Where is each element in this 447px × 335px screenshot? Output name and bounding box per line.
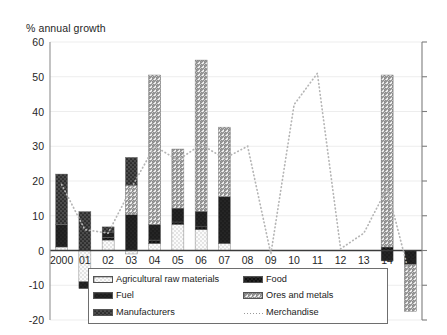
bar-segment — [56, 174, 68, 224]
x-axis-tick: 15 — [405, 254, 417, 266]
bar-segment — [195, 227, 207, 230]
bar-segment — [218, 197, 230, 244]
y-axis-tick: -20 — [18, 314, 44, 326]
y-axis-tick: 20 — [18, 175, 44, 187]
bar-segment — [195, 211, 207, 227]
bar-segment — [172, 224, 184, 250]
legend-label: Fuel — [116, 291, 134, 300]
bar-segment — [172, 208, 184, 222]
legend-swatch-dark-dotted-swatch — [93, 309, 113, 316]
bar-segment — [404, 264, 416, 311]
legend-item[interactable]: Food — [243, 271, 383, 288]
x-axis-tick: 05 — [172, 254, 184, 266]
bar-segment — [56, 224, 68, 247]
bar-segment — [102, 237, 114, 240]
chart-container: % annual growth 6050403020100-10-20 2000… — [0, 0, 447, 335]
legend-label: Ores and metals — [266, 291, 333, 300]
x-axis-tick: 03 — [126, 254, 138, 266]
x-axis-tick: 13 — [358, 254, 370, 266]
legend-swatch-dark-crosshatch-swatch — [243, 276, 263, 283]
y-axis-tick: 40 — [18, 106, 44, 118]
bar-segment — [102, 240, 114, 250]
legend-item[interactable]: Manufacturers — [93, 304, 243, 321]
x-axis-tick: 14 — [381, 254, 393, 266]
bar-segment — [149, 240, 161, 243]
bar-segment — [125, 215, 137, 251]
x-axis-tick: 08 — [242, 254, 254, 266]
legend-item[interactable]: Agricultural raw materials — [93, 271, 243, 288]
legend-swatch-diagonal-hatch-swatch — [243, 292, 263, 299]
legend-label: Manufacturers — [116, 308, 175, 317]
bar-segment — [172, 222, 184, 224]
chart-legend: Agricultural raw materialsFoodFuelOres a… — [88, 268, 388, 324]
bar-segment — [381, 75, 393, 247]
bar-segment — [149, 244, 161, 251]
x-axis-tick: 06 — [195, 254, 207, 266]
bar-segment — [149, 224, 161, 240]
bar-segment — [102, 227, 114, 232]
x-axis-tick: 11 — [312, 254, 323, 266]
bar-segment — [195, 60, 207, 211]
y-axis-tick: 30 — [18, 140, 44, 152]
bar-segment — [218, 244, 230, 251]
x-axis-tick: 10 — [288, 254, 300, 266]
x-axis-tick: 07 — [219, 254, 231, 266]
legend-label: Food — [266, 275, 287, 284]
x-axis-tick: 12 — [335, 254, 347, 266]
x-axis-tick: 2000 — [50, 254, 73, 266]
legend-swatch-light-dotted-swatch — [93, 276, 113, 283]
legend-label: Agricultural raw materials — [116, 275, 219, 284]
x-axis-tick: 02 — [102, 254, 114, 266]
bar-segment — [125, 185, 137, 215]
legend-label: Merchandise — [266, 308, 319, 317]
x-axis-tick: 09 — [265, 254, 277, 266]
bar-segment — [195, 230, 207, 251]
x-axis-tick: 04 — [149, 254, 161, 266]
y-axis-tick: 50 — [18, 71, 44, 83]
x-axis-tick: 01 — [79, 254, 91, 266]
legend-item[interactable]: Fuel — [93, 288, 243, 305]
chart-axis-title: % annual growth — [26, 22, 106, 34]
bar-segment — [218, 127, 230, 197]
y-axis-tick: -10 — [18, 279, 44, 291]
legend-swatch-solid-dark-swatch — [93, 292, 113, 299]
y-axis-tick: 60 — [18, 36, 44, 48]
legend-swatch-dotted-line-swatch — [243, 311, 263, 314]
y-axis-tick: 0 — [18, 245, 44, 257]
legend-item[interactable]: Merchandise — [243, 304, 383, 321]
legend-item[interactable]: Ores and metals — [243, 288, 383, 305]
y-axis-tick: 10 — [18, 210, 44, 222]
